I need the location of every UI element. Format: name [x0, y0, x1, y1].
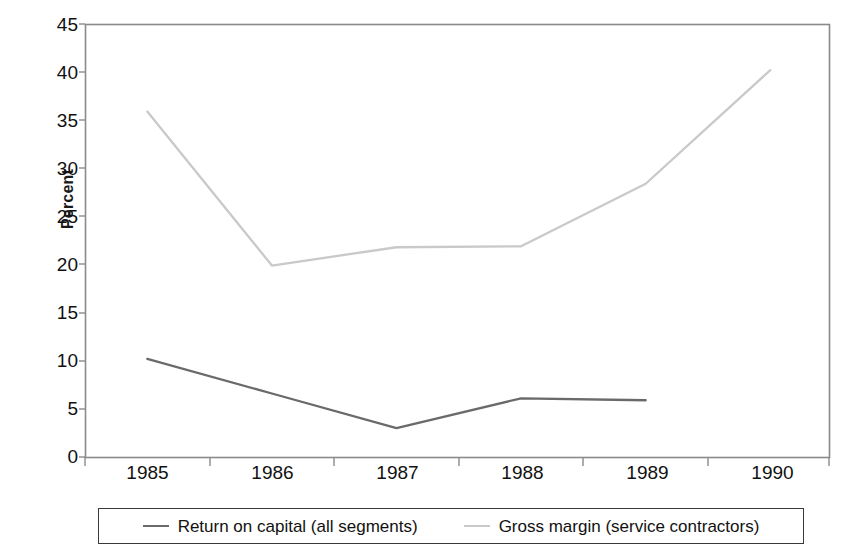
plot-frame — [86, 25, 830, 458]
series-line-return-on-capital — [147, 359, 645, 428]
x-tick-marks — [85, 457, 829, 466]
plot-area — [0, 0, 846, 558]
legend-item-return-on-capital[interactable]: Return on capital (all segments) — [143, 517, 418, 536]
legend-line-swatch-icon — [143, 525, 169, 527]
line-chart: Percent 45 40 35 30 25 20 15 10 5 0 1985… — [0, 0, 846, 558]
legend-item-label: Return on capital (all segments) — [178, 517, 418, 536]
legend-line-swatch-icon — [464, 525, 490, 527]
legend-item-gross-margin[interactable]: Gross margin (service contractors) — [464, 517, 760, 536]
series-line-gross-margin — [147, 70, 770, 265]
chart-legend: Return on capital (all segments) Gross m… — [98, 508, 804, 544]
y-tick-marks — [79, 24, 85, 457]
legend-item-label: Gross margin (service contractors) — [499, 517, 760, 536]
